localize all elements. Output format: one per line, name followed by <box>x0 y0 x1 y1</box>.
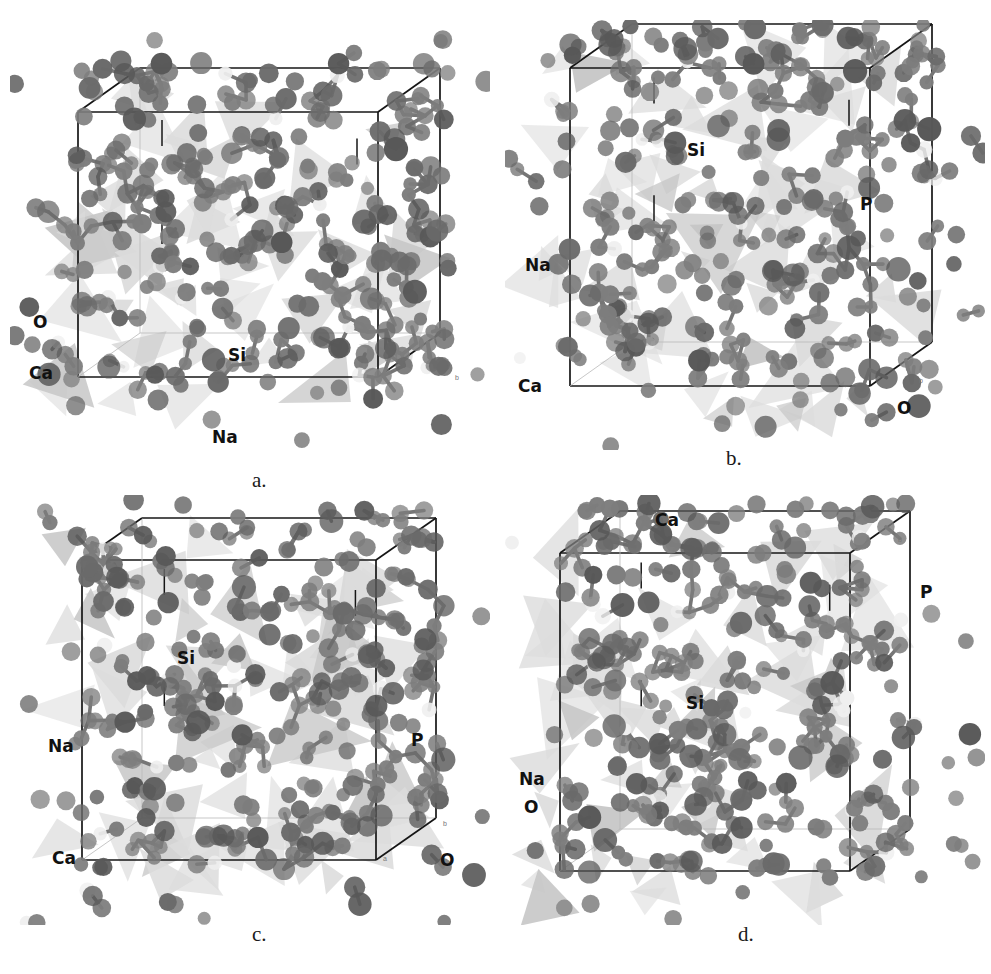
sodium-atom <box>371 250 393 272</box>
calcium-atom <box>115 598 134 617</box>
sodium-atom <box>948 226 966 244</box>
calcium-atom <box>68 527 87 546</box>
calcium-atom <box>155 201 176 222</box>
calcium-atom <box>247 827 268 848</box>
oxygen-atom <box>649 562 663 576</box>
calcium-atom <box>403 280 427 304</box>
sodium-atom <box>662 564 680 582</box>
oxygen-atom <box>74 63 90 79</box>
oxygen-atom <box>554 556 568 570</box>
sodium-atom <box>546 726 563 743</box>
oxygen-atom <box>472 607 490 625</box>
oxygen-atom <box>761 228 776 243</box>
calcium-atom <box>837 27 860 50</box>
sodium-atom <box>832 579 849 596</box>
sodium-atom <box>270 682 289 701</box>
sodium-atom <box>873 750 892 769</box>
sodium-atom <box>236 73 256 93</box>
calcium-atom <box>328 53 349 74</box>
panel-caption-a: a. <box>252 468 267 493</box>
sodium-atom <box>273 858 295 880</box>
oxygen-atom <box>880 228 894 242</box>
calcium-atom <box>788 746 812 770</box>
sodium-atom <box>643 120 664 141</box>
oxygen-atom <box>213 280 230 297</box>
oxygen-atom <box>696 87 714 105</box>
calcium-atom <box>251 127 270 146</box>
sodium-atom <box>707 28 728 49</box>
calcium-atom <box>382 682 404 704</box>
sodium-atom <box>111 310 128 327</box>
sodium-atom <box>700 233 717 250</box>
sodium-atom <box>716 803 734 821</box>
sodium-atom <box>600 121 620 141</box>
oxygen-atom <box>300 592 319 611</box>
oxygen-atom <box>278 807 291 820</box>
calcium-atom <box>666 765 683 782</box>
sodium-atom <box>418 175 438 195</box>
sodium-atom <box>291 128 308 145</box>
panel-caption-b: b. <box>726 446 742 471</box>
calcium-atom <box>313 327 335 349</box>
sodium-atom <box>813 348 834 369</box>
oxygen-atom <box>475 809 490 824</box>
oxygen-atom <box>310 386 324 400</box>
calcium-atom <box>68 146 86 164</box>
calcium-atom <box>799 595 821 617</box>
sodium-atom <box>912 163 932 183</box>
element-label-o: O <box>33 312 47 332</box>
oxygen-atom <box>368 62 387 81</box>
sodium-atom <box>776 229 795 248</box>
oxygen-atom <box>314 558 333 577</box>
sodium-atom <box>281 787 297 803</box>
sodium-atom <box>420 156 441 177</box>
oxygen-atom <box>361 182 374 195</box>
calcium-atom <box>250 549 268 567</box>
sodium-atom <box>428 783 448 803</box>
element-label-na: Na <box>48 736 74 756</box>
calcium-atom <box>558 132 576 150</box>
phosphorus-atom <box>228 679 243 694</box>
oxygen-atom <box>796 523 811 538</box>
oxygen-atom <box>331 380 348 397</box>
calcium-atom <box>886 257 910 281</box>
sodium-atom <box>876 832 896 852</box>
oxygen-atom <box>769 738 786 755</box>
sodium-atom <box>339 742 356 759</box>
calcium-atom <box>377 205 397 225</box>
axis-tag: b <box>455 374 459 381</box>
oxygen-atom <box>203 411 221 429</box>
oxygen-atom <box>387 272 402 287</box>
oxygen-atom <box>201 282 214 295</box>
sodium-atom <box>286 72 304 90</box>
oxygen-atom <box>74 857 88 871</box>
calcium-atom <box>375 338 396 359</box>
oxygen-atom <box>701 59 719 77</box>
sodium-atom <box>273 586 290 603</box>
sodium-atom <box>610 61 631 82</box>
sodium-atom <box>321 85 343 107</box>
calcium-atom <box>232 724 253 745</box>
element-label-p: P <box>860 194 872 214</box>
calcium-atom <box>414 628 436 650</box>
oxygen-atom <box>560 102 578 120</box>
calcium-atom <box>146 366 164 384</box>
sodium-atom <box>77 296 98 317</box>
oxygen-atom <box>551 824 569 842</box>
panel-caption-d: d. <box>738 922 754 947</box>
sodium-atom <box>239 520 255 536</box>
oxygen-atom <box>147 273 166 292</box>
oxygen-atom <box>75 108 93 126</box>
oxygen-atom <box>675 197 692 214</box>
oxygen-atom <box>598 140 614 156</box>
sodium-atom <box>385 610 404 629</box>
atoms-layer <box>10 20 490 450</box>
oxygen-atom <box>713 253 729 269</box>
oxygen-atom <box>589 263 608 282</box>
sodium-atom <box>294 847 314 867</box>
oxygen-atom <box>600 192 619 211</box>
calcium-atom <box>94 858 112 876</box>
oxygen-atom <box>90 790 105 805</box>
oxygen-atom <box>732 370 750 388</box>
oxygen-atom <box>710 586 729 605</box>
